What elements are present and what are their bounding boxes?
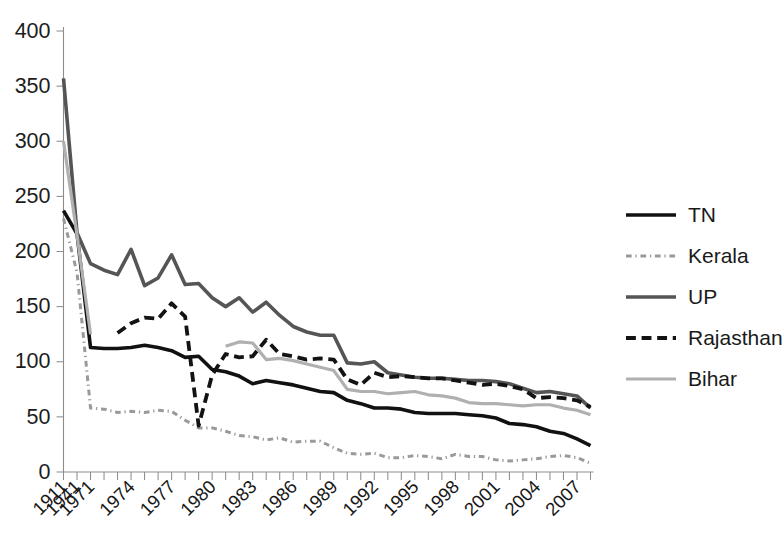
x-tick-label: 1998 xyxy=(419,476,463,520)
x-tick-label: 2007 xyxy=(541,476,585,520)
x-axis-tick-labels: 1911194119711974197719801983198619891992… xyxy=(28,476,584,520)
y-tick-label: 150 xyxy=(15,294,51,318)
x-tick-label: 1983 xyxy=(217,476,261,520)
series-line-kerala xyxy=(64,218,591,463)
y-tick-label: 100 xyxy=(15,349,51,373)
series-line-up xyxy=(64,78,591,408)
y-axis-ticks xyxy=(57,31,64,472)
x-tick-label: 1986 xyxy=(257,476,301,520)
x-tick-label: 1992 xyxy=(338,476,382,520)
y-tick-label: 250 xyxy=(15,184,51,208)
x-tick-label: 1989 xyxy=(298,476,342,520)
x-tick-label: 2004 xyxy=(500,476,544,520)
legend-label-up: UP xyxy=(688,285,717,308)
legend-label-kerala: Kerala xyxy=(688,244,749,267)
legend-label-bihar: Bihar xyxy=(688,367,737,390)
y-axis-tick-labels: 050100150200250300350400 xyxy=(15,19,51,484)
legend-label-tn: TN xyxy=(688,203,716,226)
x-tick-label: 2001 xyxy=(460,476,504,520)
y-tick-label: 350 xyxy=(15,74,51,98)
x-tick-label: 1974 xyxy=(95,476,139,520)
y-tick-label: 400 xyxy=(15,19,51,43)
series-line-tn xyxy=(64,211,591,446)
x-tick-label: 1980 xyxy=(176,476,220,520)
line-chart: 050100150200250300350400 191119411971197… xyxy=(0,0,782,555)
x-tick-label: 1977 xyxy=(135,476,179,520)
x-axis: 1911194119711974197719801983198619891992… xyxy=(28,472,593,520)
y-axis: 050100150200250300350400 xyxy=(15,19,64,484)
series-lines xyxy=(64,78,591,463)
y-tick-label: 50 xyxy=(27,405,51,429)
chart-legend: TNKeralaUPRajasthanBihar xyxy=(626,203,782,390)
y-tick-label: 300 xyxy=(15,129,51,153)
x-tick-label: 1995 xyxy=(379,476,423,520)
chart-container: 050100150200250300350400 191119411971197… xyxy=(0,0,782,555)
y-tick-label: 200 xyxy=(15,239,51,263)
legend-label-rajasthan: Rajasthan xyxy=(688,326,782,349)
y-tick-label: 0 xyxy=(39,460,51,484)
